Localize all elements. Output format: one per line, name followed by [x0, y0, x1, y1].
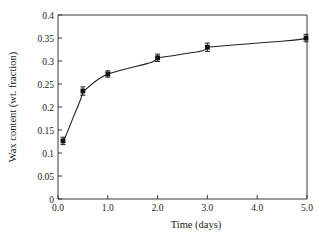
- chart-figure: 0 0.05 0.1 0.15 0.2 0.25 0.3 0.35 0.4 0.…: [0, 0, 327, 244]
- y-tick-label: 0.25: [37, 80, 54, 90]
- marker-square: [81, 89, 86, 94]
- y-tick-label: 0.35: [37, 34, 54, 44]
- x-axis-title: Time (days): [171, 219, 222, 231]
- y-tick-label: 0.15: [37, 126, 54, 136]
- marker-square: [304, 36, 309, 41]
- x-tick-label: 4.0: [251, 203, 263, 213]
- y-tick-label: 0.2: [42, 103, 54, 113]
- wax-content-vs-time-chart: 0 0.05 0.1 0.15 0.2 0.25 0.3 0.35 0.4 0.…: [0, 0, 327, 244]
- marker-square: [205, 45, 210, 50]
- y-tick-label: 0.1: [42, 149, 54, 159]
- marker-square: [61, 139, 66, 144]
- marker-square: [155, 55, 160, 60]
- y-tick-label: 0.4: [42, 11, 54, 21]
- y-tick-label: 0.3: [42, 57, 54, 67]
- x-tick-label: 5.0: [301, 203, 313, 213]
- data-point: [105, 71, 110, 77]
- x-tick-label: 1.0: [102, 203, 114, 213]
- x-tick-label: 2.0: [152, 203, 164, 213]
- x-tick-label: 3.0: [201, 203, 213, 213]
- y-axis-title: Wax content (wt. fraction): [7, 51, 19, 162]
- y-tick-label: 0.05: [37, 172, 54, 182]
- x-tick-label: 0.0: [52, 203, 64, 213]
- marker-square: [105, 72, 110, 77]
